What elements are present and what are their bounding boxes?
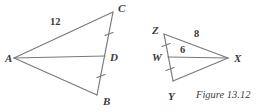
figure-caption: Figure 13.12 [196,90,250,101]
segment-AC [14,12,113,58]
segment-AB [14,58,97,95]
triangle-zyx-lines [164,34,228,81]
segment-YX [173,58,228,81]
vertex-label-d: D [110,52,118,63]
vertex-label-b: B [103,96,110,107]
geometry-figure: ACBD12 ZXYW86 Figure 13.12 [0,0,262,112]
vertex-label-y: Y [168,91,175,102]
length-WX: 6 [180,45,185,56]
vertex-label-w: W [152,52,162,63]
triangle-abc-lines [14,12,113,95]
vertex-label-x: X [234,53,241,64]
median-AD [14,56,105,58]
length-AC: 12 [50,17,61,28]
vertex-label-a: A [5,53,12,64]
length-ZX: 8 [194,29,199,40]
vertex-label-z: Z [152,25,159,36]
median-WX [168,57,228,58]
vertex-label-c: C [118,3,125,14]
